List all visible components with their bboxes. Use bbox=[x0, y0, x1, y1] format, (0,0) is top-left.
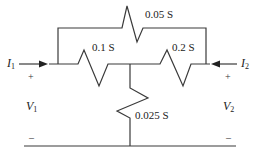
circuit-diagram: 0.05 S 0.1 S 0.2 S 0.025 S I1 + V1 – I2 … bbox=[0, 0, 260, 156]
left-series-resistor-label: 0.1 S bbox=[92, 42, 115, 53]
v2-subscript: 2 bbox=[230, 105, 234, 114]
v1-label: V1 bbox=[26, 100, 37, 114]
shunt-resistor-label: 0.025 S bbox=[135, 110, 169, 121]
v1-minus-sign: – bbox=[29, 133, 34, 143]
i1-label: I1 bbox=[7, 57, 15, 71]
v1-plus-sign: + bbox=[28, 72, 34, 82]
shunt-resistor bbox=[117, 64, 148, 146]
circuit-wires bbox=[0, 0, 260, 156]
top-branch-wire bbox=[58, 6, 206, 64]
top-resistor-label: 0.05 S bbox=[145, 9, 173, 20]
v2-plus-sign: + bbox=[225, 72, 231, 82]
i2-subscript: 2 bbox=[245, 62, 249, 71]
v2-label: V2 bbox=[223, 100, 234, 114]
right-series-resistor bbox=[130, 50, 210, 86]
right-series-resistor-label: 0.2 S bbox=[172, 42, 195, 53]
v1-subscript: 1 bbox=[33, 105, 37, 114]
left-series-resistor bbox=[49, 50, 130, 86]
i1-arrow-head-icon bbox=[39, 61, 48, 68]
v2-minus-sign: – bbox=[226, 133, 231, 143]
i2-label: I2 bbox=[241, 57, 249, 71]
i2-arrow-head-icon bbox=[211, 61, 220, 68]
i1-subscript: 1 bbox=[11, 62, 15, 71]
